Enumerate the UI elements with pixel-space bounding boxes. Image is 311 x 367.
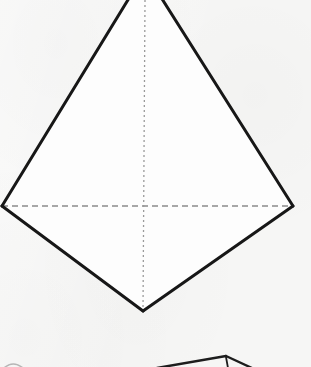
lower-figure-left-ridge [157, 356, 226, 367]
lower-figure-inner-edge [226, 357, 228, 367]
tetrahedron-faces [2, 0, 293, 311]
lower-figure-right-ridge [226, 356, 252, 367]
cropped-lower-figure [4, 356, 252, 367]
upper-front-face [2, 0, 293, 206]
lower-front-face [2, 206, 293, 311]
figure-page [0, 0, 311, 367]
geometry-figure-svg [0, 0, 311, 367]
